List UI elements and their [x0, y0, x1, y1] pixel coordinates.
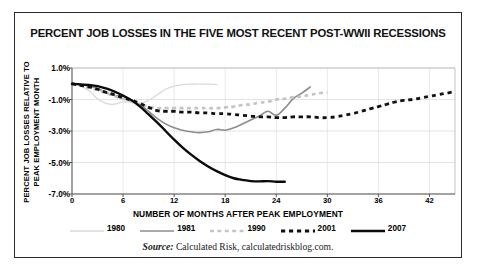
x-tick-4: 24 — [272, 196, 280, 205]
x-tick-3: 18 — [221, 196, 229, 205]
legend-label-2001: 2001 — [318, 224, 336, 233]
legend-item-2007[interactable]: 2007 — [351, 224, 406, 233]
x-axis-tick-labels: 06121824303642 — [0, 196, 478, 210]
legend-label-1990: 1990 — [247, 224, 265, 233]
legend-item-1990[interactable]: 1990 — [210, 224, 265, 233]
x-tick-2: 12 — [170, 196, 178, 205]
x-tick-7: 42 — [425, 196, 433, 205]
legend-item-1980[interactable]: 1980 — [70, 224, 125, 233]
legend-label-1981: 1981 — [177, 224, 195, 233]
source-prefix: Source: — [143, 241, 174, 252]
chart-legend: 19801981199020012007 — [14, 221, 462, 235]
legend-item-1981[interactable]: 1981 — [140, 224, 195, 233]
plot-area — [0, 55, 478, 205]
source-text: Calculated Risk, calculatedriskblog.com. — [176, 241, 333, 252]
data-series-group — [72, 84, 455, 182]
x-tick-1: 6 — [121, 196, 125, 205]
x-tick-0: 0 — [70, 196, 74, 205]
legend-item-2001[interactable]: 2001 — [281, 224, 336, 233]
source-note: Source: Calculated Risk, calculatedriskb… — [14, 241, 462, 252]
chart-figure: PERCENT JOB LOSSES IN THE FIVE MOST RECE… — [0, 0, 478, 270]
legend-label-2007: 2007 — [388, 224, 406, 233]
series-line-1981 — [72, 84, 310, 133]
legend-label-1980: 1980 — [107, 224, 125, 233]
x-axis-label: NUMBER OF MONTHS AFTER PEAK EMPLOYMENT — [14, 209, 462, 219]
chart-title: PERCENT JOB LOSSES IN THE FIVE MOST RECE… — [14, 27, 462, 39]
series-line-2007 — [72, 84, 285, 182]
x-tick-5: 30 — [323, 196, 331, 205]
x-tick-6: 36 — [374, 196, 382, 205]
gridlines — [69, 68, 455, 197]
